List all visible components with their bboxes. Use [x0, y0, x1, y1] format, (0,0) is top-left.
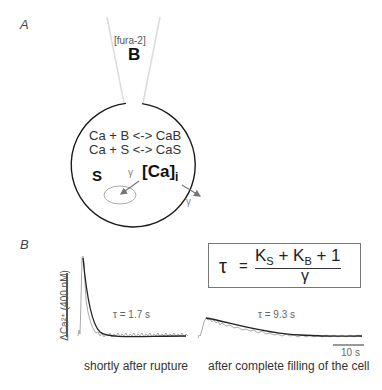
formula-lhs: τ	[219, 255, 227, 278]
figure-graphics	[0, 0, 382, 390]
trace-1-caption: shortly after rupture	[84, 359, 188, 373]
formula-denominator: γ	[301, 267, 309, 285]
trace-1-tau: τ = 1.7 s	[113, 309, 150, 320]
x-scale-label: 10 s	[341, 347, 360, 358]
trace-2-fit	[206, 318, 362, 336]
calcium-label-main: [Ca]	[142, 162, 175, 181]
panel-b-label: B	[20, 237, 29, 252]
trace-1-fit	[83, 258, 186, 337]
uptake-arrow	[121, 181, 139, 194]
formula-box: τ = KS + KB + 1 γ	[208, 243, 361, 288]
gamma-inner: γ	[128, 167, 133, 178]
y-scale-label: ΔCa²⁺ (400 nM)	[59, 266, 70, 346]
formula-sub-s: S	[266, 255, 273, 267]
formula-plus-one: + 1	[312, 246, 341, 265]
store-symbol: S	[92, 167, 102, 184]
trace-2-tau: τ = 9.3 s	[258, 309, 295, 320]
formula-plus-k: + K	[274, 246, 305, 265]
trace-2-caption: after complete filling of the cell	[208, 359, 369, 373]
trace-1-raw	[78, 256, 188, 337]
formula-equals: =	[239, 257, 248, 274]
panel-a-label: A	[20, 17, 29, 32]
formula-numerator: KS + KB + 1	[255, 246, 341, 269]
formula-sub-b: B	[304, 255, 311, 267]
gamma-outer: γ	[186, 196, 191, 207]
equation-buffer: Ca + B <-> CaB	[89, 128, 181, 143]
calcium-label: [Ca]i	[142, 162, 178, 184]
calcium-subscript: i	[175, 170, 178, 184]
formula-k: K	[255, 246, 266, 265]
equation-store: Ca + S <-> CaS	[89, 142, 181, 157]
store-compartment	[104, 186, 136, 204]
buffer-symbol: B	[128, 45, 140, 65]
